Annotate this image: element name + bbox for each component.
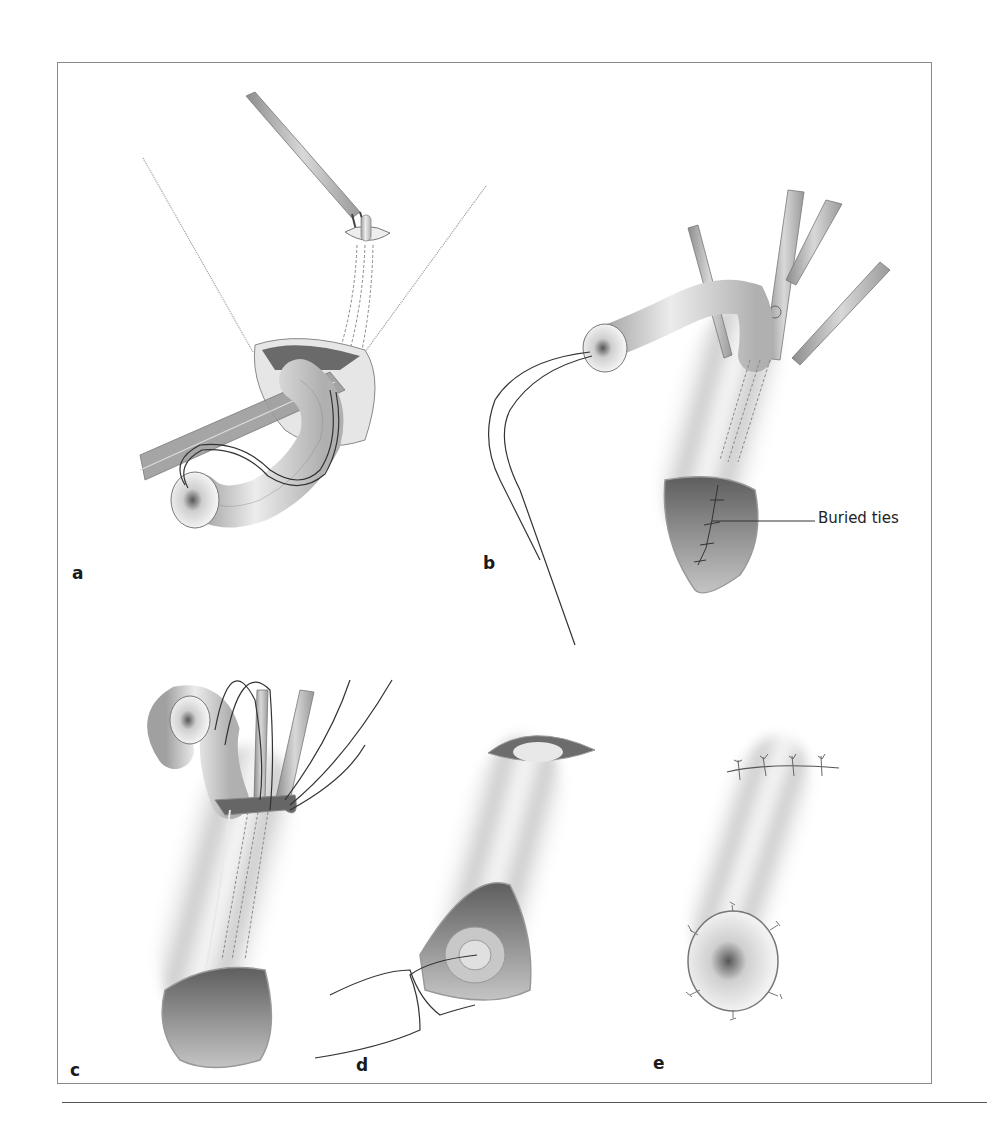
panel-label-e: e [653,1053,665,1073]
panel-label-d: d [356,1055,368,1075]
panel-d-illustration [315,720,595,1058]
page-rule [62,1102,987,1103]
callout-buried-ties: Buried ties [818,509,899,527]
panel-a-illustration [140,92,486,528]
panel-c-illustration [131,680,392,1068]
panel-label-b: b [483,553,495,573]
panel-e-illustration [665,720,839,1020]
panel-b-illustration [489,190,890,645]
panel-label-c: c [70,1060,80,1080]
panel-label-a: a [72,563,83,583]
